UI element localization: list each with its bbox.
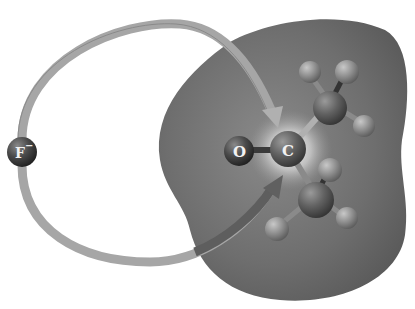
- oxygen-label: O: [233, 143, 246, 161]
- fluoride-charge: −: [25, 140, 33, 151]
- carbon-label: C: [282, 142, 294, 160]
- fluoride-label: F: [15, 145, 25, 161]
- methyl-carbon-upper: [313, 91, 347, 125]
- methyl-carbon-lower: [298, 182, 334, 218]
- reaction-diagram: O C F −: [0, 0, 415, 309]
